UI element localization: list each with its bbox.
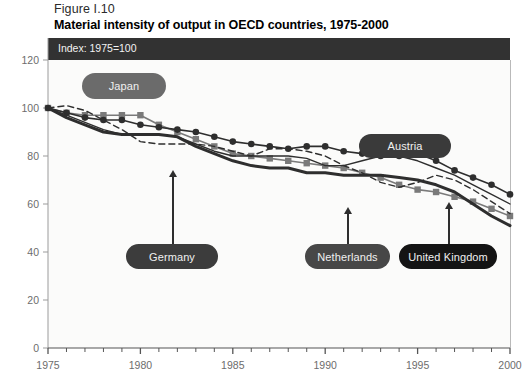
series-marker-austria [433,158,440,165]
x-tick-label: 2000 [498,359,522,371]
y-tick-label: 0 [33,342,39,354]
series-marker-japan [193,136,199,142]
y-tick-label: 60 [27,198,39,210]
series-marker-japan [137,112,143,118]
arrowhead-netherlands [344,207,352,214]
series-marker-austria [137,122,144,129]
series-marker-austria [156,124,163,131]
series-marker-austria [507,191,514,198]
x-tick-label: 1990 [314,359,338,371]
series-marker-japan [488,206,494,212]
series-marker-austria [230,138,237,145]
series-marker-austria [488,182,495,189]
y-tick-label: 120 [21,54,39,66]
arrowhead-germany [169,170,177,177]
series-marker-austria [451,167,458,174]
y-tick-label: 20 [27,294,39,306]
series-marker-austria [119,117,126,124]
figure-container: Figure I.10 Material intensity of output… [0,0,529,388]
x-tick-label: 1985 [221,359,245,371]
callout-netherlands[interactable]: Netherlands [305,244,390,269]
arrowhead-uk [445,202,453,209]
y-tick-label: 40 [27,246,39,258]
callout-netherlands-label: Netherlands [317,251,377,263]
chart-area: Index: 1975=100 020406080100120197519801… [0,0,529,388]
leader-line-netherlands [347,213,349,244]
callout-japan[interactable]: Japan [82,73,166,99]
series-marker-austria [211,134,218,141]
series-marker-austria [82,114,89,121]
line-chart-svg: 020406080100120197519801985199019952000 [0,0,529,388]
series-marker-austria [340,148,347,155]
series-line-japan [48,108,510,216]
series-marker-austria [174,126,181,133]
leader-line-uk [448,208,450,244]
x-tick-label: 1980 [129,359,153,371]
series-marker-japan [433,189,439,195]
series-marker-japan [285,158,291,164]
series-marker-austria [470,174,477,181]
callout-germany[interactable]: Germany [126,244,218,269]
series-marker-japan [304,160,310,166]
series-marker-japan [414,186,420,192]
series-marker-austria [100,117,107,124]
x-tick-label: 1995 [406,359,430,371]
callout-united-kingdom-label: United Kingdom [408,251,488,263]
callout-austria[interactable]: Austria [359,134,451,158]
callout-germany-label: Germany [149,251,195,263]
y-tick-label: 100 [21,102,39,114]
callout-austria-label: Austria [388,140,423,152]
x-tick-label: 1975 [36,359,60,371]
series-marker-austria [248,141,255,148]
series-marker-austria [322,143,329,150]
series-marker-austria [303,143,310,150]
series-marker-austria [193,129,200,136]
leader-line-germany [172,176,174,244]
callout-japan-label: Japan [109,80,139,92]
series-line-germany [48,108,510,226]
callout-united-kingdom[interactable]: United Kingdom [399,244,497,269]
y-tick-label: 80 [27,150,39,162]
